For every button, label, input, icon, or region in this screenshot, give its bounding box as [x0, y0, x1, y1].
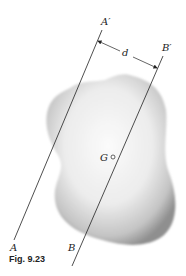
label-centroid-g: G	[100, 152, 108, 163]
label-a-prime: A′	[100, 16, 111, 27]
label-a: A	[9, 242, 17, 253]
label-b: B	[67, 242, 75, 253]
distance-arrow-left	[98, 41, 120, 51]
distance-arrow-right	[133, 57, 157, 68]
figure-caption: Fig. 9.23	[9, 254, 45, 264]
centroid-marker	[111, 155, 115, 159]
parallel-axis-figure: A′ B′ A B G d	[0, 0, 186, 276]
body-shape	[46, 74, 175, 245]
label-distance-d: d	[122, 47, 128, 58]
label-b-prime: B′	[161, 42, 172, 53]
